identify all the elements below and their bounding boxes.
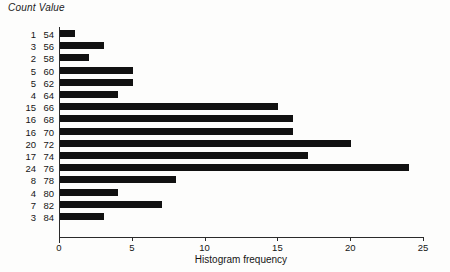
x-tick-label: 5 — [129, 242, 134, 253]
row-count-label: 5 — [0, 66, 36, 77]
histogram-bar — [60, 103, 278, 110]
x-tick-label: 25 — [418, 242, 429, 253]
row-count-label: 2 — [0, 53, 36, 64]
row-value-label: 70 — [38, 127, 54, 138]
row-count-label: 7 — [0, 200, 36, 211]
histogram-bar — [60, 54, 89, 61]
row-value-label: 66 — [38, 102, 54, 113]
x-tick — [59, 237, 60, 241]
histogram-figure: Count Value 1543562585605624641566166816… — [0, 0, 450, 272]
x-axis-label: Histogram frequency — [0, 254, 450, 265]
x-tick-label: 15 — [272, 242, 283, 253]
row-value-label: 64 — [38, 90, 54, 101]
x-tick — [277, 237, 278, 241]
histogram-bar — [60, 91, 118, 98]
row-value-label: 56 — [38, 41, 54, 52]
histogram-bar — [60, 30, 75, 37]
histogram-bar — [60, 128, 293, 135]
histogram-bar — [60, 189, 118, 196]
histogram-bar — [60, 67, 133, 74]
row-count-label: 1 — [0, 29, 36, 40]
x-axis-line — [59, 237, 424, 238]
row-count-label: 4 — [0, 90, 36, 101]
x-tick-label: 0 — [56, 242, 61, 253]
histogram-bar — [60, 164, 409, 171]
row-count-label: 15 — [0, 102, 36, 113]
x-tick — [132, 237, 133, 241]
row-value-label: 72 — [38, 139, 54, 150]
row-value-label: 82 — [38, 200, 54, 211]
row-count-label: 24 — [0, 163, 36, 174]
x-tick — [205, 237, 206, 241]
row-value-label: 76 — [38, 163, 54, 174]
histogram-bar — [60, 140, 351, 147]
row-count-label: 5 — [0, 78, 36, 89]
row-value-label: 78 — [38, 175, 54, 186]
row-value-label: 54 — [38, 29, 54, 40]
row-value-label: 60 — [38, 66, 54, 77]
histogram-bar — [60, 42, 104, 49]
histogram-bar — [60, 201, 162, 208]
row-value-label: 68 — [38, 114, 54, 125]
row-count-label: 4 — [0, 188, 36, 199]
x-tick-label: 10 — [199, 242, 210, 253]
x-tick-label: 20 — [345, 242, 356, 253]
row-count-label: 20 — [0, 139, 36, 150]
x-tick — [423, 237, 424, 241]
row-value-label: 84 — [38, 212, 54, 223]
row-count-label: 8 — [0, 175, 36, 186]
row-count-label: 17 — [0, 151, 36, 162]
x-tick — [350, 237, 351, 241]
histogram-bar — [60, 115, 293, 122]
row-count-label: 16 — [0, 114, 36, 125]
histogram-bar — [60, 176, 176, 183]
row-count-label: 3 — [0, 41, 36, 52]
histogram-bar — [60, 213, 104, 220]
row-value-label: 80 — [38, 188, 54, 199]
row-count-label: 16 — [0, 127, 36, 138]
plot-area: 1543562585605624641566166816702072177424… — [0, 0, 450, 272]
row-value-label: 58 — [38, 53, 54, 64]
histogram-bar — [60, 79, 133, 86]
row-value-label: 74 — [38, 151, 54, 162]
row-value-label: 62 — [38, 78, 54, 89]
row-count-label: 3 — [0, 212, 36, 223]
x-axis-label-text: Histogram frequency — [195, 254, 287, 265]
histogram-bar — [60, 152, 308, 159]
